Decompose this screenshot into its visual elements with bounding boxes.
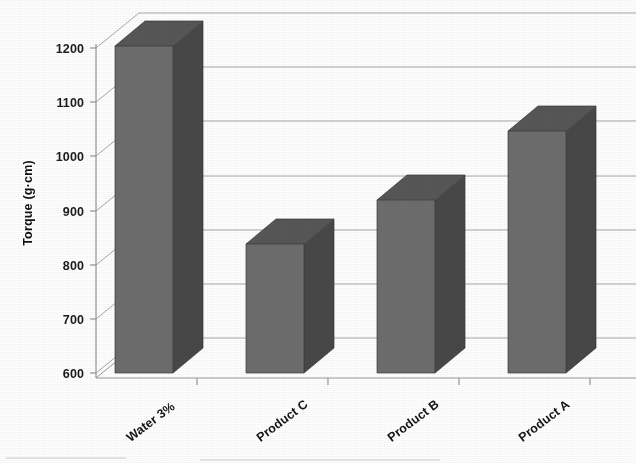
y-tick-label: 1000 xyxy=(56,150,84,164)
scan-artifact xyxy=(200,459,440,461)
y-axis-title: Torque (g·cm) xyxy=(21,133,35,273)
bar-product-b[interactable] xyxy=(377,175,465,373)
y-tick-label: 1100 xyxy=(56,96,84,110)
y-tick-label: 700 xyxy=(63,313,84,327)
y-tick-label: 1200 xyxy=(56,42,84,56)
chart-container: 1200 1100 1000 900 800 700 600 xyxy=(0,0,636,463)
y-tick-label: 800 xyxy=(63,259,84,273)
bar-water-3[interactable] xyxy=(115,21,203,373)
bar-product-c[interactable] xyxy=(246,219,334,373)
y-tick-label: 900 xyxy=(63,205,84,219)
y-axis-ticks xyxy=(90,48,96,373)
y-tick-label: 600 xyxy=(63,367,84,381)
bar-chart-plot: 1200 1100 1000 900 800 700 600 xyxy=(0,0,636,463)
bar-product-a[interactable] xyxy=(508,106,596,373)
scan-artifact xyxy=(6,457,126,459)
x-axis-ticks xyxy=(197,378,590,385)
y-tick-labels: 1200 1100 1000 900 800 700 600 xyxy=(56,42,84,381)
